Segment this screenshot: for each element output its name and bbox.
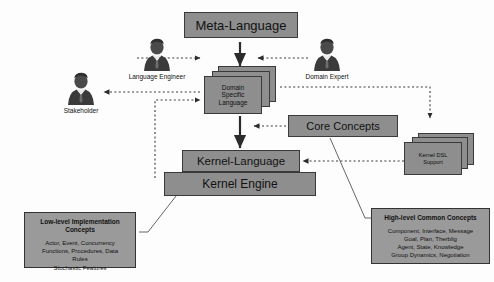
domain-specific-language-stack[interactable]: Domain Specific Language bbox=[204, 66, 280, 116]
low-level-body-line-1: Actor, Event, Concurrency bbox=[29, 239, 131, 247]
kernel-language-label: Kernel-Language bbox=[197, 155, 285, 167]
high-level-body-line-2: Goal, Plan, Therblig bbox=[376, 235, 485, 243]
low-level-title-line-1: Low-level Implementation bbox=[29, 218, 131, 226]
kernel-engine-box[interactable]: Kernel Engine bbox=[164, 172, 316, 196]
dsl-line-2: Specific bbox=[219, 91, 248, 98]
actor-label-stakeholder: Stakeholder bbox=[36, 107, 126, 114]
low-level-body-line-4: Stochastic Features bbox=[29, 264, 131, 272]
leader-core-to-high-level bbox=[330, 138, 372, 218]
person-icon bbox=[140, 38, 174, 72]
low-level-implementation-concepts-box[interactable]: Low-level Implementation Concepts Actor,… bbox=[24, 212, 136, 268]
high-level-title-line-1: High-level Common Concepts bbox=[376, 214, 485, 222]
kernel-engine-label: Kernel Engine bbox=[202, 177, 277, 191]
kernel-dsl-sheet-front: Kernel DSL Support bbox=[404, 142, 462, 175]
meta-language-label: Meta-Language bbox=[195, 18, 286, 33]
low-level-body-line-3: Rules bbox=[29, 255, 131, 263]
actor-stakeholder[interactable]: Stakeholder bbox=[64, 72, 98, 106]
low-level-body-line-2: Functions, Procedures, Data bbox=[29, 247, 131, 255]
kernel-language-box[interactable]: Kernel-Language bbox=[182, 150, 300, 172]
high-level-body-line-3: Agent, State, Knowledge bbox=[376, 243, 485, 251]
high-level-body-line-1: Component, Interface, Message bbox=[376, 227, 485, 235]
kernel-dsl-line-2: Support bbox=[419, 159, 448, 165]
actor-domain-expert[interactable]: Domain Expert bbox=[310, 38, 344, 72]
diagram-canvas: Meta-Language Domain Specific Language C… bbox=[0, 0, 494, 282]
dsl-sheet-front: Domain Specific Language bbox=[204, 76, 262, 114]
dsl-line-3: Language bbox=[219, 99, 248, 106]
core-concepts-label: Core Concepts bbox=[306, 120, 379, 132]
meta-language-box[interactable]: Meta-Language bbox=[184, 12, 298, 38]
core-concepts-box[interactable]: Core Concepts bbox=[288, 115, 398, 137]
high-level-body-line-4: Group Dynamics, Negotiation bbox=[376, 251, 485, 259]
actor-label-language-engineer: Language Engineer bbox=[112, 73, 202, 80]
arrow-dsl-to-core bbox=[280, 87, 430, 118]
low-level-body: Actor, Event, Concurrency Functions, Pro… bbox=[29, 239, 131, 271]
dsl-line-1: Domain bbox=[219, 84, 248, 91]
actor-language-engineer[interactable]: Language Engineer bbox=[140, 38, 174, 72]
kernel-dsl-support-stack[interactable]: Kernel DSL Support bbox=[404, 133, 484, 179]
leader-kernel-engine-to-low-level bbox=[139, 196, 176, 232]
high-level-common-concepts-box[interactable]: High-level Common Concepts Component, In… bbox=[371, 208, 490, 264]
low-level-title: Low-level Implementation Concepts bbox=[29, 218, 131, 234]
person-icon bbox=[310, 38, 344, 72]
low-level-title-line-2: Concepts bbox=[29, 226, 131, 234]
high-level-title: High-level Common Concepts bbox=[376, 214, 485, 222]
kernel-dsl-line-1: Kernel DSL bbox=[419, 152, 448, 158]
person-icon bbox=[64, 72, 98, 106]
actor-label-domain-expert: Domain Expert bbox=[282, 73, 372, 80]
high-level-body: Component, Interface, Message Goal, Plan… bbox=[376, 227, 485, 259]
